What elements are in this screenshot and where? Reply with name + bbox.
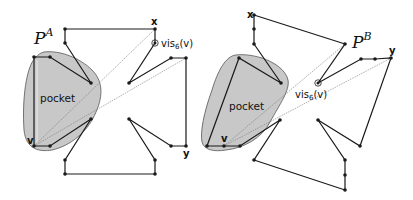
diagram-canvas: PA pocket x y v vis6(v) PB xyxy=(0,0,413,200)
panel-a: PA pocket x y v vis6(v) xyxy=(24,16,194,176)
polygon-label-a: PA xyxy=(33,26,53,48)
vertex-label-x-b: x xyxy=(247,9,254,20)
vertex-label-v-a: v xyxy=(27,135,34,146)
vertex-label-y-b: y xyxy=(389,45,396,56)
pocket-label-a: pocket xyxy=(40,92,75,104)
vis-label-a: vis6(v) xyxy=(161,38,193,51)
polygon-label-b: PB xyxy=(351,30,372,52)
vertex-label-x-a: x xyxy=(151,16,158,27)
vertex-label-v-b: v xyxy=(221,133,228,144)
figure: PA pocket x y v vis6(v) PB xyxy=(0,0,413,200)
pocket-label-b: pocket xyxy=(229,100,264,112)
vertex-label-y-a: y xyxy=(183,148,190,159)
vis-label-b: vis6(v) xyxy=(295,89,327,102)
panel-b: PB pocket x y v vis6(v) xyxy=(201,9,396,192)
